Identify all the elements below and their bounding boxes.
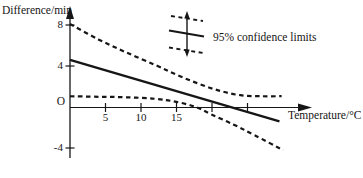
confidence-limits-chart: Difference/min Temperature/°C O 95% conf…	[0, 0, 363, 178]
y-tick-label: -4	[30, 141, 63, 153]
y-axis-title: Difference/min	[2, 4, 72, 16]
x-tick-label: 5	[93, 111, 119, 123]
x-axis-title: Temperature/°C	[288, 109, 361, 121]
legend-label: 95% confidence limits	[213, 31, 316, 43]
x-tick-label: 10	[128, 111, 154, 123]
legend-arrow-up-icon	[184, 11, 189, 19]
y-tick-label: 4	[30, 59, 63, 71]
y-tick-label: 8	[30, 18, 63, 30]
origin-label: O	[40, 95, 65, 107]
x-tick-label: 15	[164, 111, 190, 123]
